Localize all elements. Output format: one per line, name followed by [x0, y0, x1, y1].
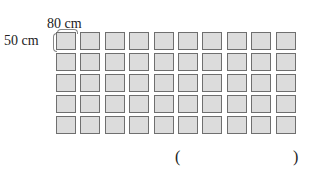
- tile: [56, 116, 76, 134]
- tile: [227, 53, 247, 71]
- tile: [80, 95, 100, 113]
- tile: [227, 116, 247, 134]
- tile: [154, 32, 174, 50]
- tile: [56, 32, 76, 50]
- answer-open-paren: (: [175, 149, 180, 165]
- tile: [251, 74, 271, 92]
- tile: [202, 74, 222, 92]
- tile: [178, 53, 198, 71]
- tile: [202, 116, 222, 134]
- tile: [154, 95, 174, 113]
- tile: [251, 116, 271, 134]
- tile: [251, 95, 271, 113]
- tile: [178, 95, 198, 113]
- tile: [276, 74, 296, 92]
- tile: [80, 74, 100, 92]
- tile-grid: [56, 32, 296, 134]
- tile: [178, 32, 198, 50]
- tile: [129, 95, 149, 113]
- tile: [154, 53, 174, 71]
- tile: [276, 32, 296, 50]
- tile: [129, 32, 149, 50]
- tile: [105, 53, 125, 71]
- height-label: 50 cm: [4, 34, 39, 48]
- tile: [276, 116, 296, 134]
- tile: [251, 53, 271, 71]
- tile: [80, 116, 100, 134]
- tile: [56, 53, 76, 71]
- tile: [154, 116, 174, 134]
- tile: [129, 53, 149, 71]
- tile: [105, 95, 125, 113]
- tile: [276, 53, 296, 71]
- tile: [56, 74, 76, 92]
- answer-close-paren: ): [293, 149, 298, 165]
- tile: [105, 32, 125, 50]
- tile: [202, 53, 222, 71]
- tile: [129, 74, 149, 92]
- tile: [202, 95, 222, 113]
- tile: [80, 53, 100, 71]
- tile: [276, 95, 296, 113]
- tile: [56, 95, 76, 113]
- tile: [105, 74, 125, 92]
- tile: [154, 74, 174, 92]
- tile: [178, 116, 198, 134]
- tile: [227, 74, 247, 92]
- tile: [80, 32, 100, 50]
- tile: [202, 32, 222, 50]
- tile: [178, 74, 198, 92]
- tile: [105, 116, 125, 134]
- tile: [251, 32, 271, 50]
- tile: [227, 95, 247, 113]
- tile: [227, 32, 247, 50]
- tile: [129, 116, 149, 134]
